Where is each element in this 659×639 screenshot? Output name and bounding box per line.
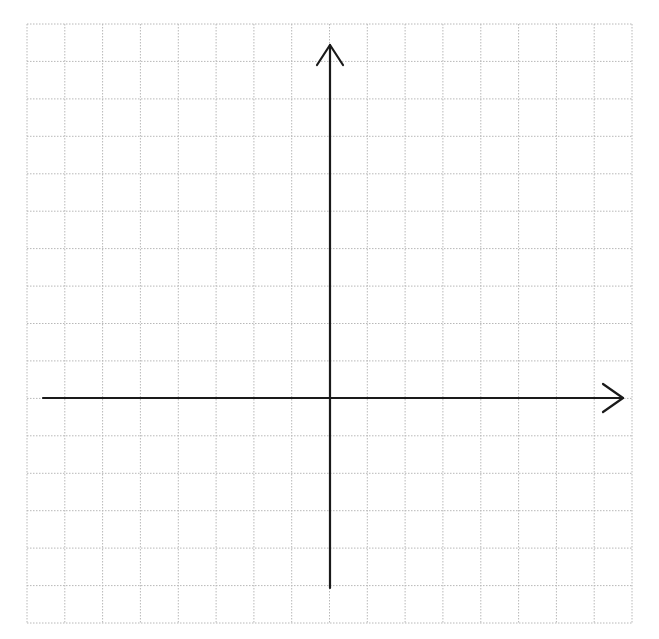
coordinate-plane [0, 0, 659, 639]
